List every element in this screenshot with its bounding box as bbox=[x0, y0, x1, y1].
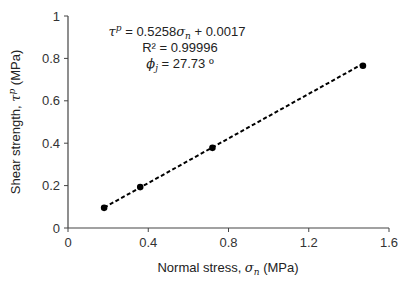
y-tick-label: 0.8 bbox=[42, 51, 60, 66]
y-tick-label: 0.4 bbox=[42, 136, 60, 151]
shear-strength-chart: 00.40.81.21.600.20.40.60.81 τp = 0.5258σ… bbox=[0, 0, 405, 286]
x-tick-label: 0.4 bbox=[139, 235, 157, 250]
data-point bbox=[209, 145, 216, 152]
y-tick-label: 1 bbox=[53, 9, 60, 24]
y-tick-label: 0.2 bbox=[42, 178, 60, 193]
x-tick-label: 0 bbox=[64, 235, 71, 250]
y-tick-label: 0 bbox=[53, 221, 60, 236]
x-tick-label: 1.2 bbox=[300, 235, 318, 250]
x-tick-label: 0.8 bbox=[219, 235, 237, 250]
trendline-equation: τp = 0.5258σn + 0.0017 bbox=[109, 23, 246, 41]
r-squared-label: R² = 0.99996 bbox=[142, 40, 218, 55]
y-tick-label: 0.6 bbox=[42, 93, 60, 108]
x-axis-label: Normal stress, σn (MPa) bbox=[157, 260, 298, 277]
tick-marks: 00.40.81.21.600.20.40.60.81 bbox=[42, 9, 398, 251]
friction-angle-label: ϕj = 27.73 º bbox=[146, 56, 214, 73]
data-point bbox=[360, 63, 367, 70]
data-point bbox=[101, 205, 108, 212]
data-point bbox=[137, 184, 144, 191]
x-tick-label: 1.6 bbox=[380, 235, 398, 250]
axes bbox=[68, 16, 389, 228]
y-axis-label: Shear strength, τp (MPa) bbox=[7, 50, 23, 194]
